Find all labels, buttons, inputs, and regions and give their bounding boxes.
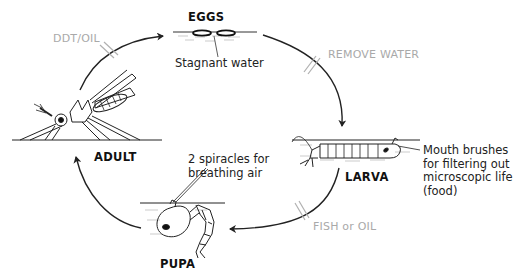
- stage-label-adult: ADULT: [94, 150, 137, 164]
- control-label-fish-or-oil: FISH or OIL: [313, 220, 376, 234]
- pupa-note-line: breathing air: [188, 167, 269, 181]
- larva-note-line: (food): [423, 185, 513, 199]
- larva-note: Mouth brushes for filtering out microsco…: [423, 144, 513, 198]
- larva-note-line: for filtering out: [423, 158, 513, 172]
- larva-note-line: microscopic life: [423, 171, 513, 185]
- eggs-note: Stagnant water: [175, 57, 264, 71]
- stage-label-larva: LARVA: [345, 170, 389, 184]
- control-label-ddt-oil: DDT/OIL: [53, 32, 100, 46]
- pupa-note-line: 2 spiracles for: [188, 153, 269, 167]
- larva-note-line: Mouth brushes: [423, 144, 513, 158]
- pupa-note: 2 spiracles for breathing air: [188, 153, 269, 180]
- arrow-pupa-to-adult: [76, 157, 141, 228]
- eggs-illustration: [173, 30, 257, 57]
- adult-mosquito-illustration: [12, 70, 162, 140]
- pupa-illustration: [140, 168, 225, 258]
- stage-label-eggs: EGGS: [188, 10, 224, 24]
- stage-label-pupa: PUPA: [160, 257, 195, 271]
- larva-illustration: [292, 137, 420, 167]
- control-label-remove-water: REMOVE WATER: [328, 48, 419, 62]
- mosquito-life-cycle-diagram: EGGS Stagnant water LARVA Mouth brushes …: [0, 0, 515, 277]
